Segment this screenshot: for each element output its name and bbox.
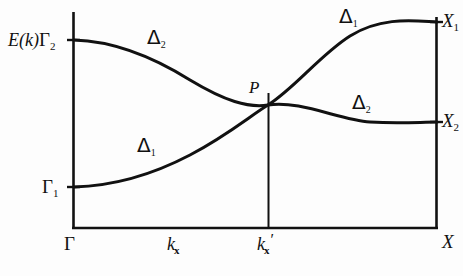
kx-sub: x xyxy=(174,244,180,256)
x-axis-origin-label: Γ xyxy=(64,234,75,253)
delta-glyph: Δ xyxy=(339,4,353,28)
x-tick-label-kx-prime: kx′ xyxy=(257,235,274,253)
x1-label: X1 xyxy=(442,11,459,30)
delta-sub: 1 xyxy=(151,147,156,158)
band-curve-delta1 xyxy=(74,21,437,187)
crossing-point-label: P xyxy=(249,79,259,96)
gamma2-label-sub: 2 xyxy=(50,40,56,52)
delta-sub: 2 xyxy=(366,104,371,115)
band-label-delta2-lower-right: Δ2 xyxy=(352,92,371,112)
band-label-delta2-upper-left: Δ2 xyxy=(147,27,166,47)
gamma1-label: Γ1 xyxy=(42,177,58,196)
kx-prime-sub: x xyxy=(264,244,270,256)
band-label-delta1-upper-right: Δ1 xyxy=(339,6,358,26)
delta-glyph: Δ xyxy=(147,25,161,49)
x1-label-base: X xyxy=(442,10,454,31)
gamma1-label-sub: 1 xyxy=(53,187,59,199)
y-axis-label: E(k)Γ2 xyxy=(8,30,55,49)
band-label-delta1-lower-left: Δ1 xyxy=(137,135,156,155)
gamma1-label-base: Γ xyxy=(42,176,53,197)
delta-sub: 1 xyxy=(353,18,358,29)
gamma2-label-base: Γ xyxy=(39,29,50,50)
y-axis-label-text: E(k) xyxy=(8,30,39,50)
x2-label-sub: 2 xyxy=(454,121,460,133)
delta-glyph: Δ xyxy=(137,133,151,157)
x1-label-sub: 1 xyxy=(454,21,460,33)
x-tick-label-kx: kx xyxy=(167,235,181,253)
x2-label-base: X xyxy=(442,110,454,131)
x2-label: X2 xyxy=(442,111,459,130)
x-axis-end-label: X xyxy=(442,232,454,251)
delta-glyph: Δ xyxy=(352,90,366,114)
band-structure-figure: E(k)Γ2 Γ1 X1 X2 Δ2 Δ1 Δ1 Δ2 P Γ kx kx′ X xyxy=(0,0,463,276)
delta-sub: 2 xyxy=(161,39,166,50)
prime-glyph: ′ xyxy=(270,231,274,248)
